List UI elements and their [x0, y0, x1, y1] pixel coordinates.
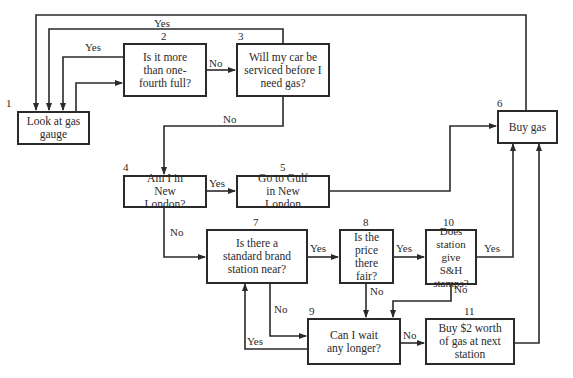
node-number: 11: [464, 306, 475, 317]
node-number: 9: [309, 306, 315, 317]
node-6-buy-gas: Buy gas: [497, 110, 558, 144]
node-number: 6: [497, 98, 503, 109]
edge-label-9-to-7-yes: Yes: [247, 336, 263, 347]
edge-label-7-to-8-yes: Yes: [310, 243, 326, 254]
edge-label-10-to-9-no: No: [454, 284, 467, 295]
node-number: 3: [238, 31, 244, 42]
edge-label-3-to-4-no: No: [223, 114, 236, 125]
edge-label-8-to-10-yes: Yes: [396, 243, 412, 254]
node-5-go-to-gulf: Go to Gulf in New London: [236, 175, 330, 208]
edge-label-2-to-1-yes: Yes: [85, 42, 101, 53]
node-number: 2: [161, 31, 167, 42]
node-number: 1: [6, 98, 12, 109]
node-number: 4: [123, 162, 129, 173]
node-2-more-than-quarter: Is it more than one-fourth full?: [123, 43, 207, 97]
node-11-buy-two-dollars: Buy $2 worth of gas at next station: [425, 318, 515, 365]
edge-5-to-6: [329, 126, 496, 191]
edge-label-4-to-7-no: No: [170, 227, 183, 238]
node-9-wait-longer: Can I wait any longer?: [307, 318, 401, 365]
node-number: 8: [363, 217, 369, 228]
node-10-sh-stamps: Does station give S&H stamps?: [425, 229, 477, 285]
node-number: 7: [253, 217, 259, 228]
edge-11-to-6: [514, 144, 539, 343]
edge-label-2-to-3-no: No: [209, 58, 222, 69]
node-1-look-at-gas-gauge: Look at gas gauge: [17, 111, 90, 145]
node-number: 5: [280, 162, 286, 173]
edge-label-3-to-1-yes: Yes: [154, 18, 170, 29]
edge-label-8-to-9-no: No: [370, 286, 383, 297]
edge-3-to-4-no: [164, 96, 283, 174]
node-4-in-new-london: Am I in New London?: [123, 175, 207, 208]
edge-label-9-to-11-no: No: [403, 330, 416, 341]
edge-label-4-to-5-yes: Yes: [209, 178, 225, 189]
edge-label-10-to-6-yes: Yes: [484, 243, 500, 254]
edge-10-to-6-yes: [476, 144, 513, 257]
node-7-standard-brand-near: Is there a standard brand station near?: [206, 229, 308, 284]
edge-1-to-2: [76, 83, 122, 111]
node-8-price-fair: Is the price there fair?: [339, 229, 394, 284]
edge-label-7-to-9-no: No: [274, 304, 287, 315]
node-3-serviced-before-gas: Will my car be serviced before I need ga…: [236, 43, 330, 97]
node-number: 10: [443, 217, 454, 228]
